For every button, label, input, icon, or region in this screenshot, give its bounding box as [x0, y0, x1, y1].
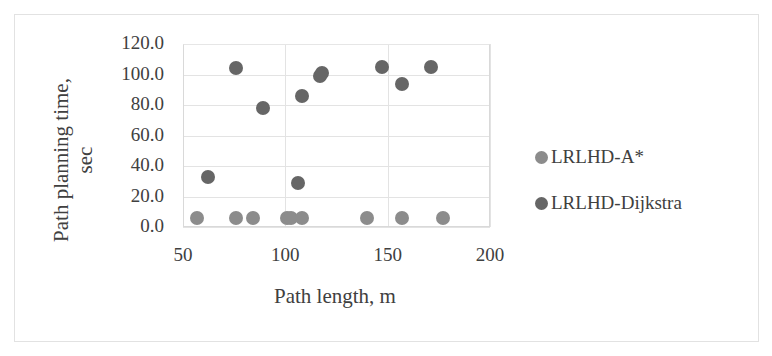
data-point — [395, 211, 409, 225]
data-point — [436, 211, 450, 225]
data-point — [424, 60, 438, 74]
legend-label: LRLHD-A* — [551, 146, 644, 168]
data-point — [295, 89, 309, 103]
data-point — [229, 211, 243, 225]
data-point — [246, 211, 260, 225]
data-point — [395, 77, 409, 91]
legend-item-astar: LRLHD-A* — [535, 144, 682, 170]
x-tick-label: 200 — [460, 244, 520, 266]
legend-label: LRLHD-Dijkstra — [551, 192, 682, 214]
y-axis-label: Path planning time, sec — [49, 70, 97, 250]
x-tick-label: 150 — [358, 244, 418, 266]
y-tick-label: 0.0 — [108, 216, 164, 236]
legend-item-dijkstra: LRLHD-Dijkstra — [535, 190, 682, 216]
y-tick-label: 40.0 — [108, 155, 164, 175]
x-tick-label: 100 — [255, 244, 315, 266]
x-axis-label: Path length, m — [230, 284, 440, 309]
legend-marker-icon — [535, 151, 548, 164]
data-point — [201, 170, 215, 184]
data-point — [360, 211, 374, 225]
v-gridline — [490, 44, 491, 227]
data-point — [295, 211, 309, 225]
legend-marker-icon — [535, 197, 548, 210]
data-point — [375, 60, 389, 74]
legend: LRLHD-A* LRLHD-Dijkstra — [535, 144, 682, 236]
y-tick-label: 120.0 — [108, 33, 164, 53]
y-tick-label: 100.0 — [108, 64, 164, 84]
y-tick-label: 80.0 — [108, 94, 164, 114]
data-point — [256, 101, 270, 115]
x-tick-label: 50 — [153, 244, 213, 266]
y-tick-label: 60.0 — [108, 125, 164, 145]
data-point — [291, 176, 305, 190]
y-tick-label: 20.0 — [108, 186, 164, 206]
h-gridline — [183, 227, 490, 228]
